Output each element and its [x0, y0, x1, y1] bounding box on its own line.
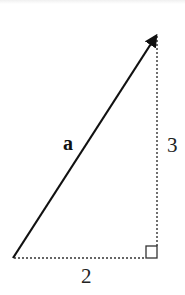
vertical-component-label: 3 [167, 135, 178, 156]
horizontal-component-label: 2 [81, 266, 92, 287]
vector-label: a [63, 133, 73, 153]
right-angle-marker [146, 246, 157, 258]
vector-arrow [13, 36, 156, 258]
vector-diagram [0, 0, 185, 295]
